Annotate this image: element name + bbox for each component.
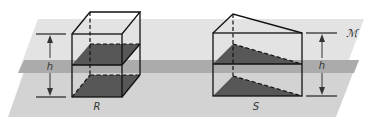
plane-overlap-band <box>18 60 359 73</box>
solid-label-s: S <box>253 101 260 112</box>
height-label-s: h <box>319 60 325 71</box>
cavalieri-diagram: h R h ℳ S <box>0 0 374 126</box>
height-label-r: h <box>47 61 53 72</box>
plane-label-m: ℳ <box>346 27 360 40</box>
solid-label-r: R <box>94 101 101 112</box>
